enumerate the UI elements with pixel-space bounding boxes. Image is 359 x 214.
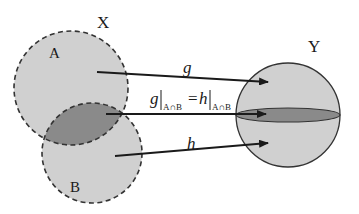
- restriction-equals: =: [188, 89, 198, 108]
- label-y: Y: [308, 37, 320, 56]
- restriction-label: g A∩B = h A∩B: [150, 89, 231, 112]
- label-h: h: [187, 134, 196, 153]
- restriction-sub-1: A∩B: [163, 102, 182, 112]
- restriction-g: g: [150, 89, 159, 108]
- label-x: X: [97, 13, 109, 32]
- mapping-diagram: X A B Y g h g A∩B = h A∩B: [0, 0, 359, 214]
- label-a: A: [49, 45, 60, 61]
- restriction-h: h: [199, 89, 208, 108]
- diagram-canvas: X A B Y g h g A∩B = h A∩B: [0, 0, 359, 214]
- restriction-sub-2: A∩B: [212, 102, 231, 112]
- label-b: B: [70, 179, 80, 195]
- label-g: g: [183, 58, 192, 77]
